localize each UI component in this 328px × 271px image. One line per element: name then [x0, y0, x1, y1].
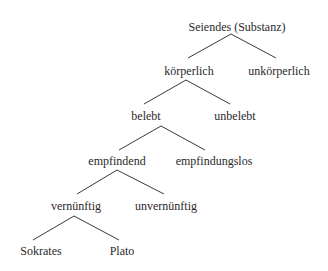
tree-edges [0, 0, 328, 271]
node-vernuenftig: vernünftig [51, 199, 101, 213]
node-unbelebt: unbelebt [214, 109, 255, 123]
node-belebt: belebt [131, 109, 160, 123]
node-unkoerperlich: unkörperlich [248, 64, 309, 78]
edge-belebt-empfindungslos [161, 126, 205, 150]
node-sokrates: Sokrates [20, 244, 61, 258]
edge-koerperlich-unbelebt [186, 80, 230, 104]
edge-seiendes-koerperlich [188, 34, 231, 58]
edge-vernuenftig-plato [74, 216, 119, 240]
edge-empfindend-vernuenftig [77, 170, 117, 194]
node-koerperlich: körperlich [164, 64, 213, 78]
node-plato: Plato [110, 244, 135, 258]
node-unvernuenftig: unvernünftig [135, 199, 197, 213]
edge-empfindend-unvernuenftig [117, 170, 164, 194]
node-empfindend: empfindend [88, 154, 145, 168]
node-seiendes: Seiendes (Substanz) [189, 20, 286, 34]
edge-seiendes-unkoerperlich [231, 34, 276, 58]
porphyrian-tree-diagram: Seiendes (Substanz) körperlich unkörperl… [0, 0, 328, 271]
node-empfindungslos: empfindungslos [176, 154, 253, 168]
edge-koerperlich-belebt [144, 80, 186, 104]
edge-vernuenftig-sokrates [33, 216, 74, 240]
edge-belebt-empfindend [119, 126, 161, 150]
